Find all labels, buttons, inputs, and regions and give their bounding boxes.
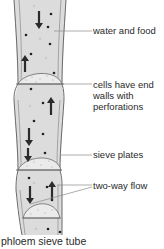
label-two-way-flow: two-way flow [93,180,147,191]
label-end-walls-line1: cells have end [93,79,154,90]
label-end-walls: cells have end walls with perforations [93,79,154,112]
sieve-tube [14,0,66,235]
label-end-walls-line3: perforations [93,101,154,112]
label-sieve-plates: sieve plates [93,149,143,160]
phloem-sieve-tube-diagram [0,0,164,249]
label-water-and-food: water and food [93,25,156,36]
label-end-walls-line2: walls with [93,90,154,101]
diagram-caption: phloem sieve tube [1,235,86,247]
